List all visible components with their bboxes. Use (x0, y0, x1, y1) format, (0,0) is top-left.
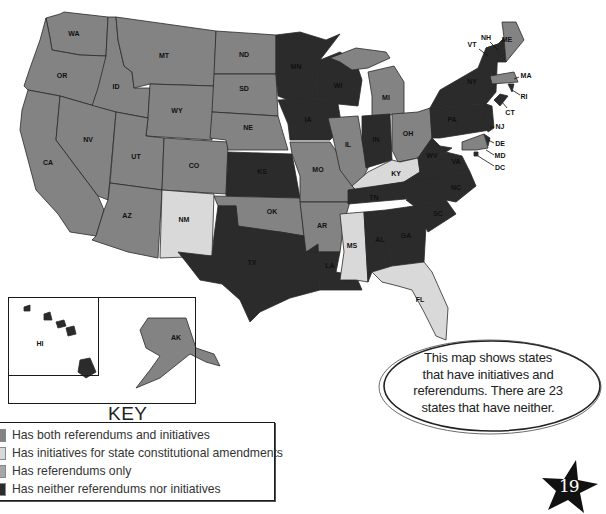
state-label-ca: CA (43, 159, 53, 166)
key-item-referendums-only: Has referendums only (0, 462, 131, 480)
state-label-nh: NH (481, 34, 491, 41)
state-label-nj: NJ (496, 123, 505, 130)
state-label-ny: NY (467, 78, 477, 85)
state-label-ri: RI (521, 93, 528, 100)
state-label-tn: TN (369, 194, 378, 201)
key-legend: Has both referendums and initiatives Has… (0, 422, 275, 501)
state-dc (474, 152, 478, 156)
state-label-nd: ND (239, 51, 249, 58)
state-md (462, 134, 488, 150)
state-fl (372, 262, 448, 340)
state-label-il: IL (345, 141, 352, 148)
state-label-ms: MS (347, 242, 358, 249)
state-label-ga: GA (401, 232, 412, 239)
state-label-or: OR (57, 72, 68, 79)
swatch-initiatives-constitutional (0, 447, 6, 460)
state-label-ia: IA (305, 116, 312, 123)
state-label-mt: MT (159, 52, 170, 59)
leader-line-ri (512, 90, 520, 95)
state-label-wy: WY (171, 107, 183, 114)
state-label-wa: WA (68, 30, 79, 37)
state-label-mn: MN (291, 63, 302, 70)
state-label-ct: CT (505, 109, 515, 116)
state-pa (430, 104, 490, 138)
key-item-initiatives-constitutional: Has initiatives for state constitutional… (0, 444, 283, 462)
state-label-in: IN (373, 136, 380, 143)
state-label-ar: AR (317, 222, 327, 229)
state-label-va: VA (451, 158, 460, 165)
state-ks (226, 152, 300, 198)
swatch-neither (0, 483, 6, 496)
swatch-referendums-only (0, 465, 6, 478)
state-label-sc: SC (433, 210, 443, 217)
state-label-la: LA (325, 262, 334, 269)
state-label-sd: SD (239, 85, 249, 92)
hawaii-inset-divider (8, 297, 99, 376)
state-label-me: ME (502, 36, 513, 43)
state-label-co: CO (189, 162, 200, 169)
state-mi (368, 66, 404, 116)
state-label-nm: NM (179, 216, 190, 223)
callout-line: This map shows states (378, 350, 598, 367)
state-label-tx: TX (248, 259, 257, 266)
state-label-ky: KY (391, 170, 401, 177)
state-label-nv: NV (83, 136, 93, 143)
state-label-ut: UT (131, 153, 141, 160)
callout-line: referendums. There are 23 (378, 383, 598, 400)
state-label-wi: WI (334, 82, 343, 89)
page-number: 19 (559, 476, 579, 496)
state-ct (494, 94, 508, 106)
callout-text: This map shows states that have initiati… (378, 350, 598, 416)
state-label-fl: FL (416, 296, 425, 303)
state-sd (212, 74, 278, 116)
key-label: Has initiatives for state constitutional… (12, 446, 283, 460)
state-label-pa: PA (447, 116, 456, 123)
callout-line: that have initiatives and (378, 367, 598, 384)
state-label-oh: OH (403, 130, 414, 137)
state-label-ne: NE (243, 124, 253, 131)
state-label-ok: OK (267, 208, 278, 215)
state-label-az: AZ (122, 212, 132, 219)
leader-line-dc (478, 156, 494, 166)
state-label-id: ID (113, 83, 120, 90)
state-label-al: AL (375, 236, 385, 243)
state-label-dc: DC (495, 164, 505, 171)
state-label-wv: WV (426, 152, 438, 159)
state-label-md: MD (495, 152, 506, 159)
state-label-vt: VT (468, 41, 478, 48)
state-label-ma: MA (521, 72, 532, 79)
key-label: Has referendums only (12, 464, 131, 478)
swatch-both (0, 429, 6, 442)
state-label-de: DE (495, 140, 505, 147)
state-label-mo: MO (312, 166, 324, 173)
callout-line: states that have neither. (378, 400, 598, 417)
leader-line-ct (502, 102, 507, 108)
state-nm (160, 190, 214, 258)
leader-line-md (486, 150, 494, 155)
key-label: Has both referendums and initiatives (12, 428, 210, 442)
key-label: Has neither referendums nor initiatives (12, 482, 221, 496)
state-label-ks: KS (257, 168, 267, 175)
state-label-nc: NC (451, 184, 461, 191)
state-label-mi: MI (382, 94, 390, 101)
key-item-both: Has both referendums and initiatives (0, 426, 210, 444)
key-item-neither: Has neither referendums nor initiatives (0, 480, 221, 498)
